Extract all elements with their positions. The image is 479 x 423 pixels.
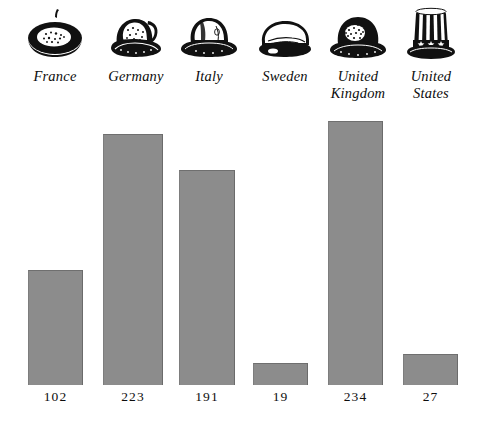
- value-label-row: 102 223 191 19 234 27: [0, 385, 479, 423]
- value-label-sweden: 19: [253, 389, 308, 405]
- bowler-hat-icon: [325, 4, 391, 66]
- category-label-united-states: United States: [411, 68, 452, 101]
- value-label-germany: 223: [103, 389, 163, 405]
- category-header-row: France: [0, 0, 479, 115]
- value-label-italy: 191: [179, 389, 235, 405]
- top-hat-icon: [398, 4, 464, 66]
- value-label-france: 102: [28, 389, 83, 405]
- category-label-sweden: Sweden: [262, 68, 308, 85]
- bar-chart: France: [0, 0, 479, 423]
- tyrolean-hat-icon: [103, 4, 169, 66]
- category-cell-united-kingdom: United Kingdom: [324, 0, 392, 115]
- value-label-united-states: 27: [403, 389, 458, 405]
- category-cell-germany: Germany: [100, 0, 172, 115]
- category-label-united-kingdom: United Kingdom: [331, 68, 386, 101]
- fedora-hat-icon: [176, 4, 242, 66]
- bar-france: [28, 270, 83, 385]
- student-cap-icon: [252, 4, 318, 66]
- category-cell-sweden: Sweden: [252, 0, 318, 115]
- category-cell-france: France: [22, 0, 88, 115]
- bar-united-kingdom: [328, 121, 383, 385]
- category-cell-united-states: United States: [400, 0, 462, 115]
- plot-area: [0, 115, 479, 385]
- category-label-france: France: [33, 68, 76, 85]
- category-label-italy: Italy: [195, 68, 223, 85]
- bar-germany: [103, 134, 163, 385]
- bar-italy: [179, 170, 235, 385]
- category-label-germany: Germany: [108, 68, 163, 85]
- category-cell-italy: Italy: [178, 0, 240, 115]
- value-label-united-kingdom: 234: [328, 389, 383, 405]
- beret-hat-icon: [22, 4, 88, 66]
- bar-sweden: [253, 363, 308, 385]
- bar-united-states: [403, 354, 458, 385]
